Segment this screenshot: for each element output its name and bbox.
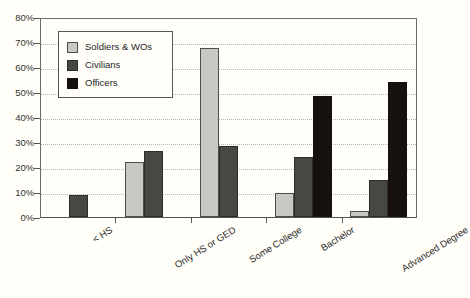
legend-item: Civilians [67, 56, 172, 74]
bar [69, 195, 88, 218]
legend-item: Officers [67, 74, 172, 92]
x-tick-mark [342, 218, 343, 223]
y-tick-label: 20% [15, 163, 34, 173]
bar-group [266, 19, 341, 217]
y-tick-label: 40% [15, 113, 34, 123]
legend-label: Officers [85, 78, 118, 88]
x-tick-mark [191, 218, 192, 223]
legend-item: Soldiers & WOs [67, 38, 172, 56]
bar [275, 193, 294, 217]
x-tick-label: Some College [247, 224, 303, 265]
y-tick-label: 50% [15, 88, 34, 98]
y-tick-label: 30% [15, 138, 34, 148]
x-tick-label: Only HS or GED [173, 224, 238, 270]
legend-label: Soldiers & WOs [85, 42, 152, 52]
legend-swatch [67, 78, 78, 89]
bar [369, 180, 388, 218]
bar [219, 146, 238, 217]
bar [200, 48, 219, 217]
y-tick-label: 80% [15, 13, 34, 23]
x-tick-label: Bachelor [319, 224, 357, 253]
x-tick-label: < HS [90, 224, 114, 245]
x-tick-label: Advanced Degree [400, 224, 470, 274]
legend-label: Civilians [85, 60, 120, 70]
legend: Soldiers & WOsCiviliansOfficers [58, 31, 173, 98]
x-tick-mark [266, 218, 267, 223]
x-tick-mark [115, 218, 116, 223]
y-tick-label: 10% [15, 188, 34, 198]
bar [313, 96, 332, 217]
x-axis-labels: < HSOnly HS or GEDSome CollegeBachelorAd… [40, 224, 417, 294]
bar [144, 151, 163, 217]
y-tick-label: 70% [15, 38, 34, 48]
y-tick-label: 60% [15, 63, 34, 73]
bar [294, 157, 313, 217]
legend-swatch [67, 42, 78, 53]
y-tick-label: 0% [20, 213, 34, 223]
bar [125, 162, 144, 217]
bar [350, 211, 369, 217]
legend-swatch [67, 60, 78, 71]
bar-group [341, 19, 416, 217]
bar-group [191, 19, 266, 217]
y-axis: 0%10%20%30%40%50%60%70%80% [0, 18, 40, 218]
bar [388, 82, 407, 217]
